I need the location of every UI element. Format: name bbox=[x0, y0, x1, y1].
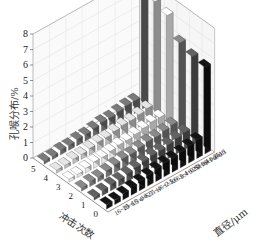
y-tick-label: 0 bbox=[23, 152, 28, 163]
y-tick-label: 4 bbox=[23, 90, 28, 101]
impact-tick-label: 0 bbox=[94, 209, 99, 219]
impact-tick-label: 2 bbox=[69, 191, 74, 201]
y-tick-label: 3 bbox=[23, 106, 28, 117]
y-tick-label: 2 bbox=[23, 121, 28, 132]
y-axis-label: 孔喉分布/% bbox=[6, 87, 21, 140]
impact-tick-label: 3 bbox=[56, 182, 61, 192]
impact-tick-label: 1 bbox=[81, 200, 86, 210]
y-tick-label: 7 bbox=[23, 44, 28, 55]
y-tick-label: 8 bbox=[23, 28, 28, 39]
y-tick-label: 5 bbox=[23, 75, 28, 86]
impact-tick-label: 5 bbox=[31, 164, 36, 174]
y-tick-label: 6 bbox=[23, 59, 28, 70]
y-tick-label: 1 bbox=[23, 137, 28, 148]
impact-tick-label: 4 bbox=[44, 173, 49, 183]
